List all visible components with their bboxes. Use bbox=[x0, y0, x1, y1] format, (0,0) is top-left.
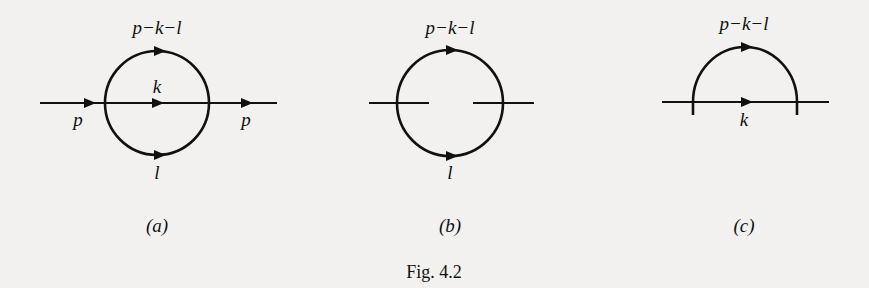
sublabel-b: (b) bbox=[439, 215, 461, 237]
arrow-icon-top-b bbox=[446, 45, 458, 55]
arrow-icon-outgoing-p bbox=[241, 98, 253, 108]
sublabel-a: (a) bbox=[146, 215, 168, 237]
arrow-icon-top-a bbox=[154, 46, 166, 56]
label-middle-a: k bbox=[153, 76, 162, 97]
panel-b: p−k−l l (b) bbox=[369, 17, 534, 237]
label-left-a: p bbox=[71, 109, 83, 130]
sublabel-c: (c) bbox=[733, 215, 754, 237]
label-bottom-c: k bbox=[740, 109, 749, 130]
label-top-c: p−k−l bbox=[718, 13, 769, 34]
label-bottom-b: l bbox=[447, 162, 452, 183]
figure-caption: Fig. 4.2 bbox=[406, 262, 462, 282]
arrow-icon-middle-k bbox=[152, 98, 164, 108]
label-top-a: p−k−l bbox=[131, 17, 182, 38]
arrow-icon-bottom-b bbox=[446, 151, 458, 161]
label-bottom-a: l bbox=[154, 162, 159, 183]
label-right-a: p bbox=[239, 109, 251, 130]
feynman-figure: p−k−l k l p p (a) p−k−l l (b) p−k−l k (c… bbox=[0, 0, 869, 288]
panel-c: p−k−l k (c) bbox=[662, 13, 829, 237]
arrow-icon-bottom-a bbox=[154, 150, 166, 160]
panel-a: p−k−l k l p p (a) bbox=[40, 17, 277, 237]
arrow-icon-middle-c bbox=[741, 97, 753, 107]
label-top-b: p−k−l bbox=[424, 17, 475, 38]
arrow-icon-top-c bbox=[741, 42, 753, 52]
arrow-icon-incoming-p bbox=[84, 98, 96, 108]
